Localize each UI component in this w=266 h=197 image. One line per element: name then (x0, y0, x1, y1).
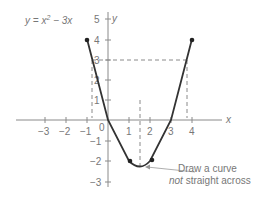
origin-label: 0 (99, 122, 105, 133)
parabola-chart: y = x2 − 3x x y −3 −2 −1 0 1 2 3 4 5 4 (0, 0, 266, 197)
annotation-line-2: not straight across (169, 175, 251, 186)
svg-text:5: 5 (94, 14, 100, 25)
equation-label: y = x2 − 3x (24, 14, 73, 26)
svg-text:−2: −2 (90, 156, 102, 167)
svg-text:−3: −3 (38, 126, 50, 137)
y-axis-label: y (111, 13, 118, 24)
annotation-line-1: Draw a curve (178, 163, 237, 174)
svg-text:2: 2 (147, 126, 153, 137)
x-axis-label: x (225, 114, 232, 125)
svg-text:3: 3 (168, 126, 174, 137)
svg-text:4: 4 (94, 35, 100, 46)
svg-text:−3: −3 (90, 177, 102, 188)
svg-text:1: 1 (126, 126, 132, 137)
y-tick-labels: 5 4 3 2 1 −1 −2 −3 (90, 14, 102, 188)
svg-text:−2: −2 (59, 126, 71, 137)
svg-text:1: 1 (94, 95, 100, 106)
svg-text:−1: −1 (90, 136, 102, 147)
svg-text:4: 4 (189, 126, 195, 137)
